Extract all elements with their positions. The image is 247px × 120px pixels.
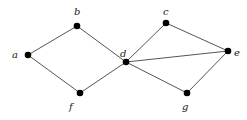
node-f <box>77 90 84 97</box>
edge-d-c <box>126 23 166 62</box>
edge-d-g <box>126 62 187 93</box>
node-label-c: c <box>163 6 169 17</box>
graph-diagram: abfdceg <box>0 0 247 120</box>
nodes <box>25 20 232 97</box>
edges <box>28 23 228 93</box>
node-label-a: a <box>12 49 18 60</box>
edge-f-d <box>80 62 126 93</box>
edge-b-d <box>77 26 126 62</box>
node-label-b: b <box>74 6 80 17</box>
edge-g-e <box>187 51 228 93</box>
node-e <box>225 48 232 55</box>
node-label-g: g <box>182 101 188 112</box>
node-c <box>163 20 170 27</box>
node-label-f: f <box>68 101 75 112</box>
node-b <box>74 23 81 30</box>
edge-a-b <box>28 26 77 55</box>
node-g <box>184 90 191 97</box>
edge-a-f <box>28 55 80 93</box>
node-d <box>123 59 130 66</box>
node-label-e: e <box>234 47 240 58</box>
node-a <box>25 52 32 59</box>
edge-c-e <box>166 23 228 51</box>
node-label-d: d <box>120 48 126 59</box>
edge-d-e <box>126 51 228 62</box>
